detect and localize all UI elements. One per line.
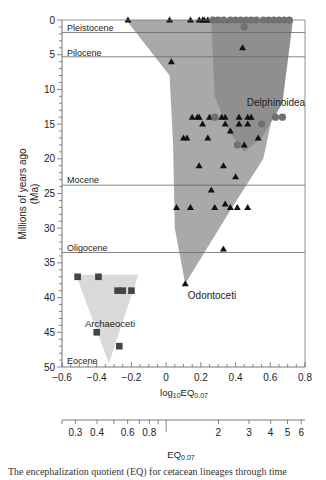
- triangle-marker: [244, 204, 251, 210]
- x2-tick-label: 2: [216, 427, 222, 438]
- triangle-marker: [187, 17, 194, 23]
- x-tick-label: −0.4: [87, 372, 107, 383]
- square-marker: [128, 287, 135, 294]
- triangle-marker: [166, 17, 173, 23]
- x-tick-label: 0.2: [194, 372, 208, 383]
- triangle-marker: [124, 17, 131, 23]
- chart: 05101520253035404550 −0.6−0.4−0.200.20.4…: [0, 0, 326, 466]
- y-axis-ticks: 05101520253035404550: [44, 15, 62, 373]
- label-pilocene: Pilocene: [67, 48, 102, 58]
- triangle-marker: [234, 204, 241, 210]
- square-marker: [119, 287, 126, 294]
- circle-marker: [272, 114, 279, 121]
- label-odontoceti: Odontoceti: [188, 290, 236, 301]
- square-marker: [95, 273, 102, 280]
- square-marker: [74, 273, 81, 280]
- y-axis-title-line1: Millions of years ago: [17, 148, 28, 240]
- y-tick-label: 10: [44, 84, 56, 95]
- square-marker: [93, 329, 100, 336]
- y-tick-label: 20: [44, 153, 56, 164]
- x2-tick-label: 0.3: [68, 427, 82, 438]
- y-tick-label: 15: [44, 119, 56, 130]
- y-tick-label: 45: [44, 327, 56, 338]
- y-tick-label: 5: [49, 49, 55, 60]
- figure-caption: The encephalization quotient (EQ) for ce…: [8, 466, 326, 477]
- x2-tick-label: 0.6: [121, 427, 135, 438]
- label-eocene: Eocene: [67, 356, 98, 366]
- label-pleistocene: Pleistocene: [67, 23, 114, 33]
- y-tick-label: 35: [44, 257, 56, 268]
- x-title-sub-007: 0.07: [194, 392, 208, 399]
- x-tick-label: 0: [163, 372, 169, 383]
- square-marker: [116, 343, 123, 350]
- circle-marker: [211, 114, 218, 121]
- label-mocene: Mocene: [67, 175, 99, 185]
- x-tick-label: 0.6: [263, 372, 277, 383]
- x-title-log: log: [160, 387, 173, 398]
- x2-axis-title: EQ0.07: [167, 449, 194, 461]
- label-delphinoidea: Delphinoidea: [247, 97, 306, 108]
- secondary-x-axis: 0.30.40.60.823456: [62, 420, 305, 438]
- label-archaeoceti: Archaeoceti: [85, 318, 135, 329]
- x2-title-eq: EQ: [167, 449, 181, 460]
- x2-tick-label: 3: [246, 427, 252, 438]
- x-title-sub-10: 10: [173, 392, 181, 399]
- x-tick-label: −0.6: [52, 372, 72, 383]
- x2-title-sub: 0.07: [181, 454, 195, 461]
- x2-tick-label: 0.4: [90, 427, 104, 438]
- triangle-marker: [220, 246, 227, 252]
- y-axis-title: Millions of years ago (Ma): [17, 148, 40, 240]
- x-tick-label: 0.8: [298, 372, 312, 383]
- circle-marker: [234, 141, 241, 148]
- x-tick-label: −0.2: [122, 372, 142, 383]
- x2-tick-label: 4: [268, 427, 274, 438]
- x2-tick-label: 5: [285, 427, 291, 438]
- y-tick-label: 50: [44, 362, 56, 373]
- triangle-marker: [182, 280, 189, 286]
- circle-marker: [279, 114, 286, 121]
- x-title-eq: EQ: [181, 387, 195, 398]
- y-tick-label: 25: [44, 188, 56, 199]
- y-tick-label: 0: [49, 15, 55, 26]
- label-oligocene: Oligocene: [67, 243, 108, 253]
- y-tick-label: 30: [44, 223, 56, 234]
- x-tick-label: 0.4: [229, 372, 243, 383]
- x-axis-title: log10EQ0.07: [160, 387, 208, 399]
- y-tick-label: 40: [44, 292, 56, 303]
- clade-regions: [76, 20, 293, 364]
- x2-tick-label: 0.8: [142, 427, 156, 438]
- circle-marker: [258, 121, 265, 128]
- x2-tick-label: 6: [298, 427, 304, 438]
- circle-marker: [241, 23, 248, 30]
- y-axis-title-line2: (Ma): [29, 184, 40, 205]
